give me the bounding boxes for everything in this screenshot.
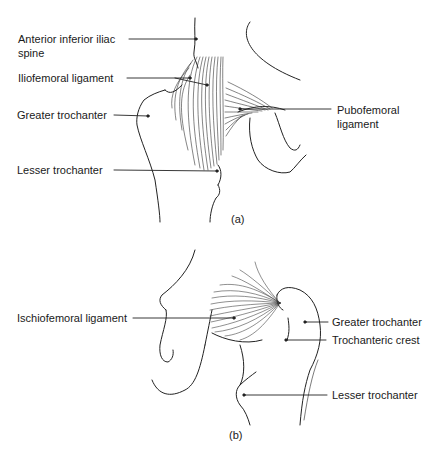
- label-ischiofemoral-ligament: Ischiofemoral ligament: [17, 312, 127, 325]
- caption-figure-a: (a): [231, 213, 244, 225]
- label-pubofemoral-ligament: Pubofemoral: [337, 104, 399, 117]
- figure-a-drawing: [114, 18, 331, 222]
- figure-b-drawing: [133, 250, 328, 425]
- label-anterior-inferior-iliac-spine: Anterior inferior iliac: [18, 33, 115, 46]
- label-greater-trochanter-b: Greater trochanter: [332, 316, 422, 329]
- label-anterior-inferior-iliac-spine-line2: spine: [18, 47, 44, 60]
- caption-figure-b: (b): [229, 429, 242, 441]
- label-trochanteric-crest: Trochanteric crest: [332, 334, 420, 347]
- label-greater-trochanter-a: Greater trochanter: [17, 109, 107, 122]
- label-pubofemoral-ligament-line2: ligament: [337, 118, 379, 131]
- label-lesser-trochanter-b: Lesser trochanter: [332, 389, 418, 402]
- hip-ligament-illustration: [0, 0, 439, 450]
- label-iliofemoral-ligament: Iliofemoral ligament: [18, 72, 113, 85]
- label-lesser-trochanter-a: Lesser trochanter: [17, 164, 103, 177]
